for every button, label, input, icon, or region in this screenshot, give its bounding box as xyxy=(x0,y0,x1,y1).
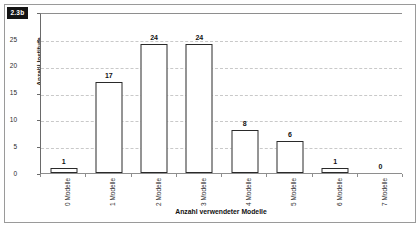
bar-slot: 24 xyxy=(177,14,222,173)
bar-slot: 0 xyxy=(358,14,403,173)
x-axis-category-label: 5 Modelle xyxy=(291,178,298,206)
bar[interactable] xyxy=(276,141,303,173)
bar[interactable] xyxy=(95,82,122,173)
bar-slot: 24 xyxy=(132,14,177,173)
y-axis-tick-label: 10 xyxy=(1,117,17,124)
x-axis-category-label: 0 Modelle xyxy=(65,178,72,206)
bar[interactable] xyxy=(186,44,213,173)
bar-value-label: 8 xyxy=(243,120,247,127)
plot-area: 11724248610 xyxy=(40,13,402,174)
figure-number-badge: 2.3b xyxy=(7,7,28,19)
bar-value-label: 6 xyxy=(288,131,292,138)
bar[interactable] xyxy=(322,168,349,173)
y-axis-tick-label: 0 xyxy=(1,171,17,178)
y-axis-tick-label: 20 xyxy=(1,63,17,70)
bar-value-label: 0 xyxy=(378,163,382,170)
bar-value-label: 24 xyxy=(195,34,203,41)
x-axis-tick-mark xyxy=(402,174,403,177)
x-axis-category-labels: 0 Modelle1 Modelle2 Modelle3 Modelle4 Mo… xyxy=(40,176,402,210)
x-axis-category-label: 6 Modelle xyxy=(337,178,344,206)
x-axis-title: Anzahl verwendeter Modelle xyxy=(40,208,402,215)
x-axis-category-label: 2 Modelle xyxy=(156,178,163,206)
x-axis-category-label: 3 Modelle xyxy=(201,178,208,206)
x-axis-category-label: 1 Modelle xyxy=(110,178,117,206)
y-axis-tick-label: 15 xyxy=(1,90,17,97)
figure-container: 2.3b Anzahl Institute 051015202530 11724… xyxy=(0,0,420,228)
x-axis-category-label: 7 Modelle xyxy=(382,178,389,206)
bar-value-label: 17 xyxy=(105,72,113,79)
bar-value-label: 24 xyxy=(150,34,158,41)
bars-layer: 11724248610 xyxy=(41,14,402,173)
x-axis-category-label: 4 Modelle xyxy=(246,178,253,206)
bar[interactable] xyxy=(231,130,258,173)
bar[interactable] xyxy=(50,168,77,173)
bar[interactable] xyxy=(141,44,168,173)
bar-value-label: 1 xyxy=(333,158,337,165)
y-axis-tick-label: 25 xyxy=(1,37,17,44)
bar-slot: 17 xyxy=(86,14,131,173)
bar-slot: 1 xyxy=(41,14,86,173)
bar-value-label: 1 xyxy=(62,158,66,165)
bar-slot: 8 xyxy=(222,14,267,173)
y-axis-tick-label: 5 xyxy=(1,144,17,151)
bar-slot: 1 xyxy=(313,14,358,173)
bar-slot: 6 xyxy=(267,14,312,173)
